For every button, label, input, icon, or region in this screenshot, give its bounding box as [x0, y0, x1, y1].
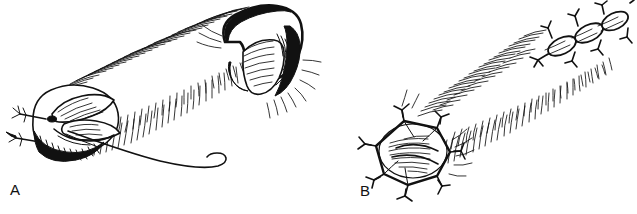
panel-a-anterior-pore [48, 116, 57, 122]
panel-label-a: A [10, 182, 20, 197]
figure-illustration: .ln{fill:none;stroke:#111;stroke-linecap… [0, 0, 637, 214]
panel-label-b: B [360, 183, 370, 198]
figure-panel-pair: .ln{fill:none;stroke:#111;stroke-linecap… [0, 0, 637, 214]
